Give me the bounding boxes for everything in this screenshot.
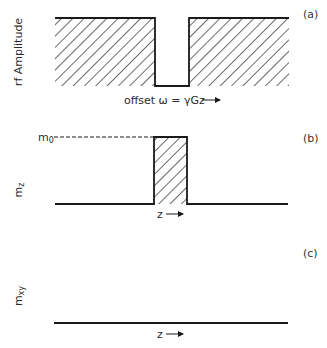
x-axis-label-a: offset ω = γGz <box>124 94 205 107</box>
panel-label-b: (b) <box>303 132 319 145</box>
y-axis-label-c: mxy <box>12 286 26 306</box>
rf-band-left <box>55 18 155 86</box>
figure-canvas: rf Amplitude offset ω = γGz (a) m0 mz z … <box>0 0 327 348</box>
panel-label-c: (c) <box>303 247 318 260</box>
panel-c: mxy z (c) <box>12 247 318 341</box>
panel-b: m0 mz z (b) <box>12 131 319 221</box>
rf-band-right <box>189 18 289 86</box>
m0-level-label: m0 <box>38 131 54 145</box>
panel-label-a: (a) <box>303 8 318 21</box>
y-axis-label-b: mz <box>12 183 26 198</box>
x-axis-label-c: z <box>157 328 163 341</box>
panel-a: rf Amplitude offset ω = γGz (a) <box>12 8 318 107</box>
x-axis-label-b: z <box>157 208 163 221</box>
y-axis-label-a: rf Amplitude <box>12 18 25 86</box>
slice-magnetization-hatch <box>154 137 187 204</box>
